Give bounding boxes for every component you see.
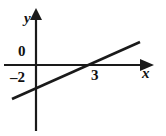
plotted-line bbox=[12, 42, 140, 99]
linear-function-graph: y x 0 –2 3 bbox=[0, 0, 166, 136]
x-axis-label: x bbox=[142, 66, 150, 81]
y-intercept-label: –2 bbox=[10, 70, 25, 85]
origin-label: 0 bbox=[18, 44, 26, 59]
x-intercept-label: 3 bbox=[91, 68, 99, 83]
y-axis-label: y bbox=[24, 11, 31, 26]
y-axis-arrow-icon bbox=[30, 8, 42, 20]
